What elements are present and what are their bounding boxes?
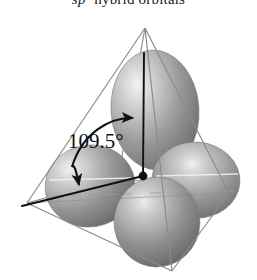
orbital-group — [40, 47, 243, 268]
bond-angle-label: 109.5° — [68, 129, 124, 153]
central-atom-dot — [139, 172, 148, 181]
sp3-hybrid-orbitals-figure: sp3 hybrid orbitals — [0, 0, 257, 280]
orbital-diagram-canvas: 109.5° — [0, 0, 257, 280]
bond-axis-up — [143, 53, 144, 176]
